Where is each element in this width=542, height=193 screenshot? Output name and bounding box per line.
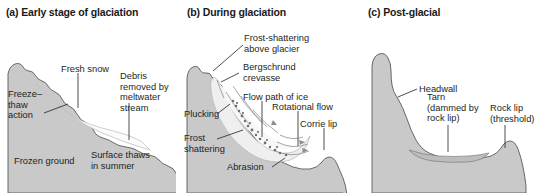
label-freeze-thaw-action: Freeze– thaw action [8, 89, 50, 121]
panel-early-stage-of-glaciation: (a) Early stage of glaciation Fresh snow… [0, 0, 176, 193]
label-corrie-lip-text: Corrie lip [300, 119, 337, 129]
label-frost-shattering-line-1: Frost [184, 133, 238, 144]
label-debris-removed: Debris removed by meltwater stream [120, 71, 176, 113]
label-tarn: Tarn (dammed by rock lip) [427, 92, 493, 124]
label-surface-thaws-line-1: Surface thaws [91, 150, 161, 161]
label-rock-lip-threshold: Rock lip (threshold) [490, 103, 542, 124]
glaciation-stages-figure: (a) Early stage of glaciation Fresh snow… [0, 0, 542, 193]
label-surface-thaws: Surface thaws in summer [91, 150, 161, 171]
label-frost-shattering: Frost shattering [184, 133, 238, 154]
label-abrasion-text: Abrasion [227, 162, 264, 172]
label-frost-above-line-2: above glacier [244, 44, 328, 55]
label-tarn-line-2: (dammed by [427, 103, 493, 114]
label-frost-above-line-1: Frost-shattering [244, 33, 328, 44]
panel-post-glacial: (c) Post-glacial Headwall Tarn (dammed b… [362, 0, 542, 193]
label-frozen-ground: Frozen ground [14, 156, 74, 167]
label-freeze-thaw-line-2: thaw [8, 100, 50, 111]
label-debris-line-2: removed by [120, 82, 176, 93]
label-debris-line-3: meltwater [120, 92, 176, 103]
leader-frost-shattering-above-glacier [213, 45, 243, 71]
label-bergschrund-line-2: crevasse [243, 73, 313, 84]
label-fresh-snow-text: Fresh snow [61, 64, 109, 74]
label-frozen-ground-text: Frozen ground [14, 156, 74, 166]
label-rotational-flow-text: Rotational flow [272, 102, 333, 112]
panel-during-glaciation: (b) During glaciation [181, 0, 357, 193]
label-plucking-text: Plucking [184, 109, 219, 119]
label-rock-lip-line-1: Rock lip [490, 103, 542, 114]
label-freeze-thaw-line-3: action [8, 110, 50, 121]
label-corrie-lip: Corrie lip [300, 119, 337, 130]
label-freeze-thaw-line-1: Freeze– [8, 89, 50, 100]
label-frost-shattering-line-2: shattering [184, 144, 238, 155]
label-flow-path-of-ice: Flow path of ice [243, 92, 308, 103]
label-debris-line-4: stream [120, 103, 176, 114]
label-tarn-line-3: rock lip) [427, 113, 493, 124]
label-tarn-line-1: Tarn [427, 92, 493, 103]
label-flow-path-text: Flow path of ice [243, 92, 308, 102]
label-frost-shattering-above-glacier: Frost-shattering above glacier [244, 33, 328, 54]
label-plucking: Plucking [184, 109, 219, 120]
label-abrasion: Abrasion [227, 162, 264, 173]
label-fresh-snow: Fresh snow [61, 64, 109, 75]
label-surface-thaws-line-2: in summer [91, 161, 161, 172]
label-rock-lip-line-2: (threshold) [490, 114, 542, 125]
leader-headwall [398, 89, 417, 97]
leader-bergschrund-crevasse [221, 73, 239, 82]
label-debris-line-1: Debris [120, 71, 176, 82]
label-bergschrund-line-1: Bergschrund [243, 62, 313, 73]
label-bergschrund-crevasse: Bergschrund crevasse [243, 62, 313, 83]
label-rotational-flow: Rotational flow [272, 102, 333, 113]
